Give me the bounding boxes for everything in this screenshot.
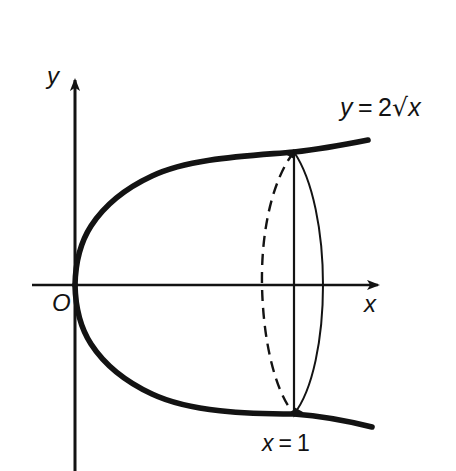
- slice-equation-equals: =: [279, 430, 293, 456]
- slice-equation-rhs: 1: [297, 430, 310, 456]
- parabola-lower: [75, 285, 372, 427]
- curve-equation-label: y = 2√x: [340, 95, 421, 120]
- slice-equation-label: x = 1: [262, 432, 310, 455]
- radical-glyph: √: [392, 93, 408, 122]
- curve-upper-branch-plot: [75, 21, 368, 285]
- slice-equation-lhs: x: [262, 430, 274, 456]
- parabola-upper: [75, 140, 368, 285]
- radical-sign: √: [392, 95, 408, 120]
- figure-canvas: [0, 0, 456, 471]
- origin-label: O: [52, 291, 71, 315]
- curve-equation-radicand: x: [408, 93, 421, 121]
- x-axis-label: x: [364, 292, 376, 316]
- disk-ellipse-visible-half: [294, 152, 323, 414]
- curve-equation-lhs: y: [340, 93, 353, 121]
- disk-ellipse-hidden-half: [262, 152, 294, 414]
- math-figure: y = 2√x x = 1 y x O: [0, 0, 456, 471]
- y-axis-label: y: [47, 64, 59, 88]
- curve-equation-equals: =: [358, 93, 373, 121]
- curve-equation-coefficient: 2: [378, 93, 392, 121]
